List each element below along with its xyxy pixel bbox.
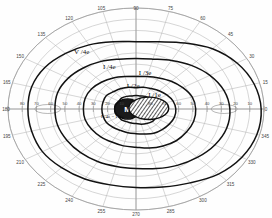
radius-label: 30 [91, 101, 96, 106]
radius-label: 10 [247, 101, 252, 106]
angle-label-15: 15 [263, 80, 269, 85]
angle-label-60: 60 [200, 16, 206, 21]
i3e-label: I /3e [139, 69, 152, 77]
angle-label-345: 345 [261, 134, 269, 139]
radius-label: 70 [162, 101, 167, 106]
angle-label-300: 300 [199, 198, 207, 203]
angle-label-90: 90 [133, 6, 139, 11]
radius-label: 50 [63, 101, 68, 106]
radius-label: 80 [20, 101, 25, 106]
radius-label: 70 [34, 101, 39, 106]
angle-label-75: 75 [168, 6, 174, 11]
angle-label-30: 30 [249, 54, 255, 59]
angle-label-240: 240 [65, 198, 73, 203]
visual-field-svg: M 01530456075901051201351501651801952102… [0, 0, 272, 218]
angle-label-180: 180 [2, 107, 10, 112]
angle-label-0: 0 [265, 107, 268, 112]
angle-label-105: 105 [98, 6, 106, 11]
angle-label-270: 270 [132, 212, 140, 217]
angle-label-135: 135 [38, 32, 46, 37]
radius-label: 30 [219, 101, 224, 106]
angle-label-45: 45 [228, 32, 234, 37]
radius-label: 80 [148, 101, 153, 106]
angle-label-285: 285 [167, 209, 175, 214]
angle-label-195: 195 [3, 134, 11, 139]
angle-label-120: 120 [65, 16, 73, 21]
i2e-label: I /2e [127, 82, 140, 90]
radius-label: 50 [191, 101, 196, 106]
angle-label-255: 255 [98, 209, 106, 214]
radius-label: 60 [48, 101, 53, 106]
i4e-label: I /4e [103, 63, 116, 71]
angle-label-210: 210 [16, 160, 24, 165]
scotoma-label: I /4e = I /1e [101, 114, 125, 119]
i1e-label: I /1e [148, 91, 161, 99]
visual-field-chart: M 01530456075901051201351501651801952102… [0, 0, 272, 218]
radius-label: 40 [205, 101, 210, 106]
radius-label: 40 [77, 101, 82, 106]
radius-label: 20 [233, 101, 238, 106]
angle-label-225: 225 [38, 182, 46, 187]
angle-label-315: 315 [227, 182, 235, 187]
radius-label: 10 [119, 101, 124, 106]
v4e-label: V /4e [74, 48, 89, 56]
angle-label-165: 165 [3, 80, 11, 85]
radius-label: 60 [176, 101, 181, 106]
angle-label-330: 330 [248, 160, 256, 165]
radius-label: 20 [105, 101, 110, 106]
angle-label-150: 150 [16, 54, 24, 59]
